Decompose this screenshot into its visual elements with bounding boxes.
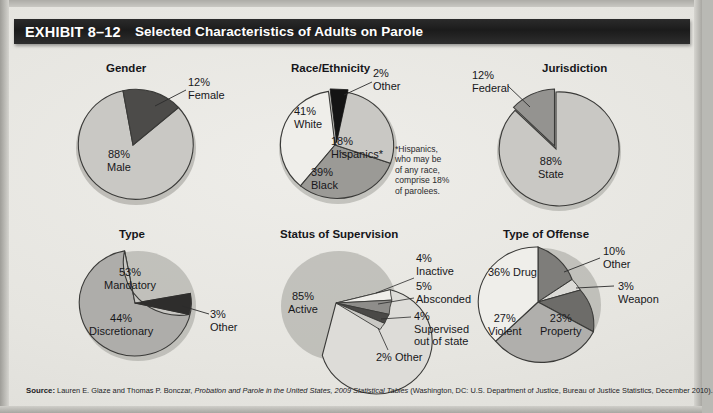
chart-type-svg (62, 228, 272, 373)
chart-jurisdiction-title: Jurisdiction (542, 62, 607, 74)
label-other-type: 3% Other (210, 308, 238, 333)
source-rule (22, 380, 678, 381)
label-female: 12% Female (188, 76, 225, 101)
label-other-race: 2% Other (373, 67, 401, 92)
callout-line-other (344, 82, 372, 95)
label-other-offense: 10% Other (603, 245, 631, 270)
source-title-italic: Probation and Parole in the United State… (194, 386, 408, 395)
chart-offense-title: Type of Offense (503, 228, 589, 240)
label-active: 85% Active (288, 290, 318, 315)
label-federal: 12% Federal (472, 69, 509, 94)
chart-gender: Gender 12% Female 88% Male (60, 62, 260, 222)
chart-offense-svg (468, 228, 693, 378)
chart-gender-svg (60, 62, 260, 212)
label-mandatory: 53% Mandatory (104, 266, 156, 291)
label-black: 39% Black (311, 166, 338, 191)
label-violent: 27% Violent (488, 312, 521, 337)
label-other-status: 2% Other (376, 351, 422, 364)
page-edge-bottom (0, 406, 702, 413)
source-line: Source: Lauren E. Glaze and Thomas P. Bo… (26, 386, 676, 396)
chart-type-of-offense: Type of Offense 36% Drug 10% Other 3% We… (468, 228, 693, 388)
chart-type-title: Type (119, 228, 145, 240)
label-white: 41% White (294, 105, 322, 130)
page-edge-top (0, 0, 702, 7)
source-text-1: Lauren E. Glaze and Thomas P. Bonczar, (55, 386, 194, 395)
source-label: Source: (26, 386, 55, 395)
chart-race-title: Race/Ethnicity (291, 62, 370, 74)
label-weapon: 3% Weapon (618, 280, 659, 305)
label-state: 88% State (538, 155, 564, 180)
chart-status-title: Status of Supervision (280, 228, 398, 240)
exhibit-number: EXHIBIT 8–12 (25, 24, 121, 40)
chart-status-of-supervision: Status of Supervision 85% Active 4% (266, 228, 496, 388)
label-absconded: 5% Absconded (416, 280, 471, 305)
label-hispanics: 18% Hispanics* (331, 135, 383, 160)
page-edge-right (694, 0, 702, 413)
chart-race-ethnicity: Race/Ethnicity 2% Other 41% White 18% (268, 62, 498, 232)
page-edge-left (0, 0, 9, 413)
source-text-2: (Washington, DC: U.S. Department of Just… (408, 386, 713, 395)
label-male: 88% Male (107, 148, 131, 173)
footnote-hispanics: *Hispanics, who may be of any race, comp… (395, 144, 449, 196)
exhibit-title: Selected Characteristics of Adults on Pa… (135, 24, 423, 39)
exhibit-banner: EXHIBIT 8–12 Selected Characteristics of… (14, 19, 690, 44)
label-discretionary: 44% Discretionary (89, 312, 153, 337)
label-property: 23% Property (540, 312, 582, 337)
chart-gender-title: Gender (106, 62, 146, 74)
label-inactive: 4% Inactive (416, 252, 454, 277)
chart-type: Type 53% Mandatory 44% Discretionary 3% … (62, 228, 272, 383)
label-supervised-out-of-state: 4% Supervised out of state (414, 310, 469, 348)
label-drug: 36% Drug (488, 266, 537, 279)
chart-jurisdiction: Jurisdiction 12% Federal 88% State (470, 62, 680, 227)
